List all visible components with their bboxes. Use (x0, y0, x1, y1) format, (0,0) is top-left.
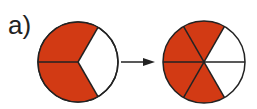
fraction-diagram (0, 0, 257, 109)
right-arrow-icon (121, 58, 155, 66)
right-circle-sixths (163, 21, 245, 103)
left-circle-thirds (38, 22, 118, 102)
